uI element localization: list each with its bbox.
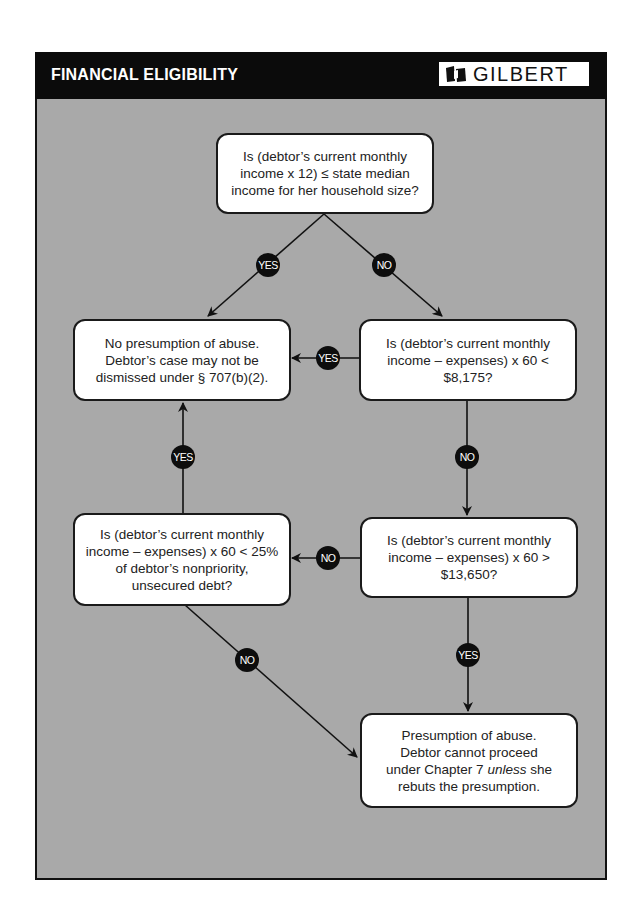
badge-median-yes: YES	[256, 253, 280, 277]
node-text: Presumption of abuse. Debtor cannot proc…	[372, 727, 566, 795]
badge-25pct-yes: YES	[171, 445, 195, 469]
edge-25pct-no	[185, 605, 357, 757]
badge-8175-yes: YES	[316, 346, 340, 370]
node-text: Is (debtor’s current monthly income x 12…	[228, 148, 422, 199]
presumption-text-emphasis: unless	[487, 762, 526, 777]
node-presumption-of-abuse: Presumption of abuse. Debtor cannot proc…	[360, 713, 578, 808]
node-no-presumption: No presumption of abuse. Debtor’s case m…	[73, 319, 291, 401]
node-text: Is (debtor’s current monthly income – ex…	[372, 532, 566, 583]
node-8175-question: Is (debtor’s current monthly income – ex…	[359, 319, 577, 401]
badge-13650-no: NO	[316, 546, 340, 570]
node-text: No presumption of abuse. Debtor’s case m…	[85, 335, 279, 386]
node-13650-question: Is (debtor’s current monthly income – ex…	[360, 517, 578, 598]
badge-median-no: NO	[372, 253, 396, 277]
node-median-income-question: Is (debtor’s current monthly income x 12…	[216, 133, 434, 214]
badge-13650-yes: YES	[456, 643, 480, 667]
badge-8175-no: NO	[455, 445, 479, 469]
node-text: Is (debtor’s current monthly income – ex…	[371, 335, 565, 386]
node-25pct-question: Is (debtor’s current monthly income – ex…	[73, 513, 291, 606]
badge-25pct-no: NO	[235, 648, 259, 672]
node-text: Is (debtor’s current monthly income – ex…	[85, 526, 279, 594]
